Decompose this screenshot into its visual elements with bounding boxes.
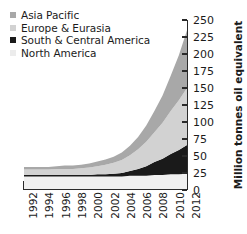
y-axis-tick [182,121,187,122]
legend-item-europe-eurasia: Europe & Eurasia [10,22,150,35]
legend-label: South & Central America [21,34,150,47]
y-axis-line [187,20,188,190]
chart-legend: Asia Pacific Europe & Eurasia South & Ce… [10,9,150,59]
legend-swatch-icon [10,50,16,56]
y-axis-tick [182,155,187,156]
x-axis-ticklabel: 2002 [110,192,121,219]
y-axis-ticklabel: 100 [193,117,214,128]
y-axis-tick [182,53,187,54]
y-axis-ticklabel: 250 [193,15,214,26]
y-axis-title-text: Million tonnes oil equivalent [232,21,244,189]
y-axis-ticklabel: 225 [193,32,214,43]
y-axis-tick [182,87,187,88]
legend-item-south-central-america: South & Central America [10,34,150,47]
x-axis-ticklabel: 2008 [158,192,169,219]
x-axis-ticklabel: 1998 [77,192,88,219]
legend-swatch-icon [10,12,16,18]
y-axis-ticklabel: 75 [193,134,207,145]
y-axis-ticklabel: 25 [193,168,207,179]
x-axis-ticklabel: 1994 [44,192,55,219]
y-axis-title: Million tonnes oil equivalent [230,20,246,190]
x-axis-ticklabel: 1996 [61,192,72,219]
chart-container: Asia Pacific Europe & Eurasia South & Ce… [0,0,247,234]
legend-label: Asia Pacific [21,9,79,22]
y-axis-tick [182,70,187,71]
x-axis-ticklabel: 2010 [175,192,186,219]
x-axis-ticklabels: 1992199419961998200020022004200620082010… [24,192,187,234]
y-axis-tick [182,138,187,139]
y-axis-ticklabel: 150 [193,83,214,94]
y-axis-tick [182,19,187,20]
y-axis-tick [182,172,187,173]
legend-label: North America [21,47,96,60]
y-axis-tick [182,104,187,105]
x-axis-left-cap [23,181,24,190]
legend-swatch-icon [10,25,16,31]
x-axis-ticklabel: 2012 [191,192,202,219]
y-axis-ticklabel: 175 [193,66,214,77]
x-axis-ticklabel: 2000 [93,192,104,219]
y-axis-ticklabel: 50 [193,151,207,162]
x-axis-ticklabel: 1992 [28,192,39,219]
y-axis-ticklabel: 200 [193,49,214,60]
legend-item-asia-pacific: Asia Pacific [10,9,150,22]
x-axis-ticklabel: 2004 [126,192,137,219]
legend-item-north-america: North America [10,47,150,60]
y-axis-tick [182,36,187,37]
legend-label: Europe & Eurasia [21,22,111,35]
x-axis-ticklabel: 2006 [142,192,153,219]
x-axis-line [24,189,188,190]
legend-swatch-icon [10,37,16,43]
y-axis-ticklabel: 125 [193,100,214,111]
